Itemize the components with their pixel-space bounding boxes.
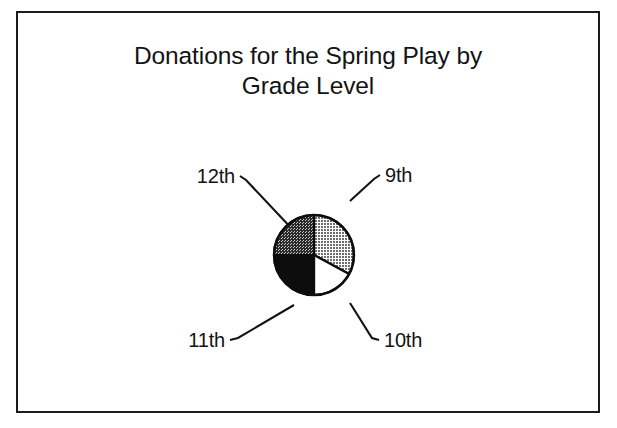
pie-label-9th: 9th [385, 164, 412, 186]
leader-line-11th [230, 305, 294, 340]
pie-label-10th: 10th [384, 329, 422, 351]
leader-line-9th [350, 175, 380, 201]
leader-line-12th [240, 176, 294, 231]
pie-label-11th: 11th [188, 329, 225, 351]
leader-line-10th [350, 303, 379, 340]
chart-frame: Donations for the Spring Play by Grade L… [16, 11, 600, 413]
pie-label-12th: 12th [197, 165, 235, 187]
pie-chart: 12th 9th 11th 10th [18, 13, 602, 415]
